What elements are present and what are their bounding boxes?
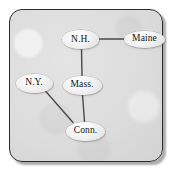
graph-node-label-conn: Conn. (74, 126, 97, 136)
graph-edge-nh-mass[interactable] (82, 49, 83, 76)
graph-node-label-mass: Mass. (71, 80, 94, 90)
graph-node-mass[interactable]: Mass. (63, 76, 102, 95)
graph-node-nh[interactable]: N.H. (62, 30, 99, 49)
graph-node-label-nh: N.H. (71, 35, 90, 45)
graph-node-label-maine: Maine (132, 34, 157, 44)
graph-node-conn[interactable]: Conn. (66, 122, 105, 141)
graph-edge-mass-conn[interactable] (83, 95, 85, 122)
graph-edge-ny-conn[interactable] (45, 91, 73, 123)
graph-node-ny[interactable]: N.Y. (16, 74, 53, 93)
graph-node-maine[interactable]: Maine (124, 31, 165, 48)
graph-node-label-ny: N.Y. (25, 78, 43, 88)
diagram-canvas: N.H.MaineMass.N.Y.Conn. (0, 0, 173, 173)
